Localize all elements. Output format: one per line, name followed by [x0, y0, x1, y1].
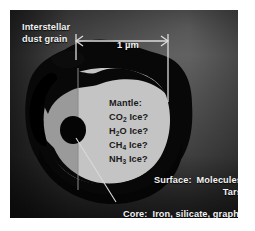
mantle-item-3: NH3 Ice? — [109, 154, 148, 168]
mantle-item-0: CO2 Ice? — [109, 112, 148, 126]
figure-container: Interstellar dust grain 1 µm Mantle: CO2… — [0, 0, 255, 231]
grain-title-label: Interstellar dust grain — [22, 22, 70, 45]
mantle-label-block: Mantle: CO2 Ice? H2O Ice? CH4 Ice? NH3 I… — [109, 98, 148, 168]
surface-value-1: Molecules? — [197, 175, 238, 185]
mantle-item-2: CH4 Ice? — [109, 140, 148, 154]
mantle-item-1: H2O Ice? — [109, 126, 148, 140]
surface-line-1: Surface:Molecules? — [154, 175, 238, 187]
grain-title-line2: dust grain — [22, 34, 67, 44]
core-heading: Core: — [123, 209, 148, 218]
core-value: Iron, silicate, graphite? — [153, 209, 239, 218]
grain-core — [60, 116, 86, 144]
scale-bar-label: 1 µm — [117, 39, 139, 51]
grain-title-line1: Interstellar — [22, 22, 70, 32]
mantle-heading: Mantle: — [109, 98, 148, 112]
image-plate: Interstellar dust grain 1 µm Mantle: CO2… — [10, 10, 238, 218]
surface-label-block: Surface:Molecules? Tars? — [154, 175, 238, 199]
core-label-block: Core:Iron, silicate, graphite? — [123, 209, 238, 218]
surface-heading: Surface: — [154, 175, 192, 185]
surface-line-2: Tars? — [154, 187, 238, 199]
